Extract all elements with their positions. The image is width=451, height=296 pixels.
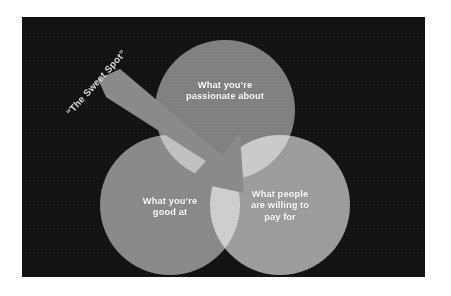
sweet-spot-venn-diagram: What you’re passionate about What you’re… — [22, 17, 425, 277]
venn-circle-pay-for — [210, 135, 350, 275]
slide-root: What you’re passionate about What you’re… — [0, 0, 451, 296]
sweet-spot-caption: “The Sweet Spot” — [52, 34, 140, 131]
